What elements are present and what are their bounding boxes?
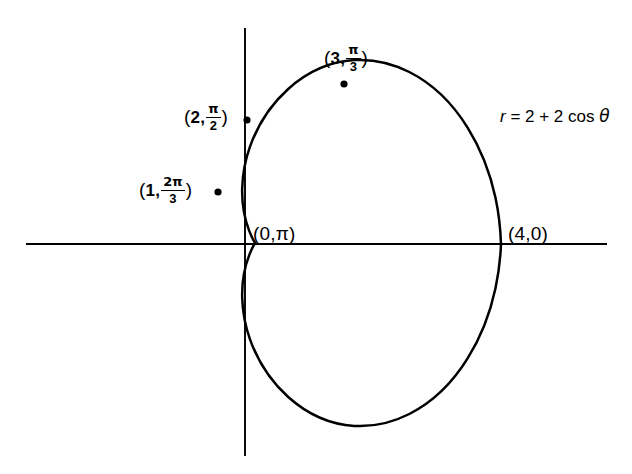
point-label-1-2pi-over-3: (1,2π3) bbox=[139, 176, 192, 206]
radius-value-2: 2 bbox=[191, 108, 201, 127]
label-origin-0-pi: (0,π) bbox=[253, 224, 296, 243]
paren-close: ) bbox=[222, 106, 229, 127]
polar-graph-figure: Figure Cardioid (3,π3) (2,π2) (1,2π3) (0… bbox=[0, 0, 632, 474]
comma: , bbox=[340, 49, 345, 68]
fraction-denominator: 2 bbox=[208, 118, 219, 133]
comma: , bbox=[155, 181, 160, 200]
fraction-pi-over-3: π3 bbox=[346, 43, 360, 73]
fraction-denominator: 3 bbox=[167, 191, 178, 206]
point-label-2-pi-over-2: (2,π2) bbox=[184, 103, 228, 133]
radius-value-3: 3 bbox=[331, 49, 341, 68]
data-point-marker-1-2pi-over-3 bbox=[214, 188, 221, 195]
fraction-numerator: π bbox=[346, 43, 360, 59]
polar-equation-label: r = 2 + 2 cos θ bbox=[500, 106, 610, 127]
equation-theta-symbol: θ bbox=[599, 106, 609, 126]
data-point-marker-3-pi-over-3 bbox=[340, 80, 347, 87]
point-label-3-pi-over-3: (3,π3) bbox=[324, 44, 368, 74]
fraction-numerator: π bbox=[206, 102, 220, 118]
paren-close: ) bbox=[186, 179, 193, 200]
radius-value-1: 1 bbox=[146, 181, 156, 200]
comma: , bbox=[200, 108, 205, 127]
fraction-denominator: 3 bbox=[348, 59, 359, 74]
fraction-pi-over-2: π2 bbox=[206, 102, 220, 132]
data-point-marker-2-pi-over-2 bbox=[243, 116, 250, 123]
fraction-2pi-over-3: 2π3 bbox=[161, 175, 185, 205]
equation-body: = 2 + 2 cos bbox=[506, 107, 600, 126]
fraction-numerator: 2π bbox=[161, 175, 185, 191]
paren-close: ) bbox=[362, 47, 369, 68]
label-vertex-4-0: (4,0) bbox=[508, 224, 548, 243]
